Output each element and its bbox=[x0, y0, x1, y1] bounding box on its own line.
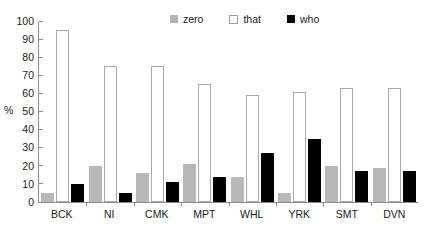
bar-group-yrk bbox=[276, 22, 323, 202]
bar-that-dvn bbox=[388, 88, 401, 202]
y-axis-tick-label: 70 bbox=[22, 70, 34, 81]
y-axis-tick-label: 50 bbox=[22, 106, 34, 117]
y-axis-tick-label: 60 bbox=[22, 88, 34, 99]
bar-that-mpt bbox=[198, 84, 211, 202]
y-axis-tick-label: 90 bbox=[22, 34, 34, 45]
bar-group-dvn bbox=[371, 22, 418, 202]
bar-who-smt bbox=[355, 171, 368, 202]
y-axis-tick-label: 20 bbox=[22, 161, 34, 172]
bar-that-whl bbox=[246, 95, 259, 202]
x-axis-label-cmk: CMK bbox=[133, 208, 181, 220]
bar-who-ni bbox=[119, 193, 132, 202]
bar-who-whl bbox=[261, 153, 274, 202]
x-axis-label-dvn: DVN bbox=[371, 208, 419, 220]
bar-that-ni bbox=[104, 66, 117, 202]
bar-chart: zero that who % 0102030405060708090100 B… bbox=[0, 0, 428, 238]
bar-zero-whl bbox=[231, 177, 244, 202]
x-axis-label-mpt: MPT bbox=[181, 208, 229, 220]
x-axis-label-whl: WHL bbox=[228, 208, 276, 220]
y-axis-tick-label: 0 bbox=[28, 197, 34, 208]
bar-group-whl bbox=[229, 22, 276, 202]
bar-that-smt bbox=[340, 88, 353, 202]
bar-zero-mpt bbox=[183, 164, 196, 202]
bar-group-smt bbox=[323, 22, 370, 202]
plot-area: 0102030405060708090100 bbox=[38, 22, 418, 203]
x-axis-label-bck: BCK bbox=[38, 208, 86, 220]
x-axis-label-smt: SMT bbox=[323, 208, 371, 220]
x-axis-label-ni: NI bbox=[86, 208, 134, 220]
bar-groups bbox=[39, 22, 418, 202]
bar-group-ni bbox=[86, 22, 133, 202]
y-axis-tick-label: 100 bbox=[16, 16, 34, 27]
bar-zero-yrk bbox=[278, 193, 291, 202]
y-axis-tick-label: 30 bbox=[22, 142, 34, 153]
bar-zero-ni bbox=[89, 166, 102, 202]
x-axis-labels: BCKNICMKMPTWHLYRKSMTDVN bbox=[38, 208, 418, 220]
bar-group-cmk bbox=[134, 22, 181, 202]
x-axis-label-yrk: YRK bbox=[276, 208, 324, 220]
bar-who-yrk bbox=[308, 139, 321, 202]
y-axis-tick-label: 40 bbox=[22, 124, 34, 135]
bar-that-yrk bbox=[293, 92, 306, 202]
bar-who-bck bbox=[71, 184, 84, 202]
bar-group-bck bbox=[39, 22, 86, 202]
bar-group-mpt bbox=[181, 22, 228, 202]
y-axis-tick-label: 10 bbox=[22, 179, 34, 190]
bar-that-cmk bbox=[151, 66, 164, 202]
y-axis-tick-label: 80 bbox=[22, 52, 34, 63]
bar-who-cmk bbox=[166, 182, 179, 202]
bar-that-bck bbox=[56, 30, 69, 202]
y-axis-title: % bbox=[4, 104, 13, 116]
bar-who-mpt bbox=[213, 177, 226, 202]
bar-zero-smt bbox=[325, 166, 338, 202]
bar-zero-cmk bbox=[136, 173, 149, 202]
bar-who-dvn bbox=[403, 171, 416, 202]
bar-zero-dvn bbox=[373, 168, 386, 202]
bar-zero-bck bbox=[41, 193, 54, 202]
